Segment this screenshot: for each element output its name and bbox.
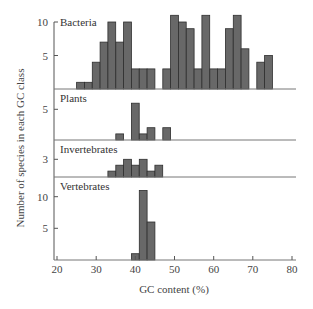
histogram-bar	[225, 29, 233, 89]
histogram-bar	[131, 165, 139, 177]
y-tick-label: 3	[43, 153, 49, 165]
x-tick-label: 80	[287, 263, 299, 275]
histogram-bar	[139, 190, 147, 260]
histogram-bar	[210, 69, 218, 89]
x-tick-label: 50	[169, 263, 181, 275]
histogram-bar	[124, 22, 132, 89]
histogram-bar	[257, 62, 265, 89]
histogram-bar	[108, 22, 116, 89]
panel-label-bacteria: Bacteria	[60, 16, 97, 28]
histogram-bar	[84, 82, 92, 89]
histogram-bar	[241, 49, 249, 89]
histogram-bar	[139, 69, 147, 89]
histogram-bar	[155, 165, 163, 177]
histogram-bar	[108, 171, 116, 177]
histogram-bar	[116, 134, 124, 140]
x-tick-label: 40	[130, 263, 142, 275]
histogram-bar	[147, 222, 155, 260]
histogram-bar	[116, 42, 124, 89]
x-tick-label: 70	[247, 263, 259, 275]
histogram-bar	[233, 15, 241, 89]
histogram-bar	[116, 165, 124, 177]
histogram-bar	[194, 69, 202, 89]
histogram-bar	[265, 56, 273, 90]
gc-content-histogram: Number of species in each GC class 510Ba…	[0, 0, 313, 309]
histogram-bar	[186, 29, 194, 89]
histogram-bar	[131, 103, 139, 140]
y-axis-title: Number of species in each GC class	[14, 69, 26, 228]
panel-label-invertebrates: Invertebrates	[60, 143, 117, 155]
panel-invertebrates: 3Invertebrates	[43, 143, 297, 177]
x-tick-label: 60	[208, 263, 220, 275]
panel-label-vertebrates: Vertebrates	[60, 180, 109, 192]
histogram-bar	[163, 69, 171, 89]
histogram-bar	[139, 159, 147, 177]
histogram-bar	[171, 15, 179, 89]
histogram-bar	[218, 69, 226, 89]
y-tick-label: 5	[43, 50, 49, 62]
histogram-bar	[147, 69, 155, 89]
histogram-bar	[178, 22, 186, 89]
histogram-bar	[124, 159, 132, 177]
panel-plants: 5Plants	[43, 92, 297, 140]
panel-vertebrates: 510Vertebrates	[37, 180, 296, 260]
y-tick-label: 5	[43, 222, 49, 234]
histogram-bar	[92, 62, 100, 89]
x-tick-label: 20	[52, 263, 64, 275]
histogram-bar	[202, 15, 210, 89]
histogram-bar	[100, 42, 108, 89]
histogram-bar	[77, 82, 85, 89]
histogram-bar	[131, 69, 139, 89]
histogram-bar	[163, 128, 171, 140]
histogram-bar	[139, 134, 147, 140]
y-tick-label: 10	[37, 16, 49, 28]
y-tick-label: 5	[43, 103, 49, 115]
panel-label-plants: Plants	[60, 92, 87, 104]
y-tick-label: 10	[37, 191, 49, 203]
histogram-bar	[147, 128, 155, 140]
x-tick-label: 30	[91, 263, 103, 275]
x-axis-title: GC content (%)	[139, 283, 209, 296]
histogram-bar	[147, 171, 155, 177]
panel-bacteria: 510Bacteria	[37, 15, 296, 89]
x-axis: 20304050607080	[52, 256, 299, 275]
panels: 510Bacteria5Plants3Invertebrates510Verte…	[37, 15, 296, 260]
